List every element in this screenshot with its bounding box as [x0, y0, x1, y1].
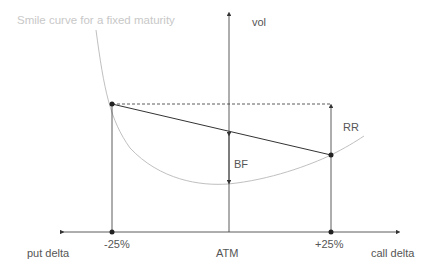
chart-title: Smile curve for a fixed maturity [17, 14, 175, 26]
bf-label: BF [234, 158, 248, 170]
smile-curve [96, 30, 364, 184]
smile-diagram [0, 0, 428, 276]
tick-right-label: +25% [315, 238, 343, 250]
y-axis-label: vol [252, 16, 266, 28]
rr-label: RR [343, 121, 359, 133]
right-tick-dot [329, 230, 334, 235]
right-point [329, 153, 334, 158]
tick-left-label: -25% [104, 238, 130, 250]
x-right-label: call delta [371, 247, 414, 259]
tick-center-label: ATM [216, 247, 238, 259]
x-left-label: put delta [27, 247, 69, 259]
left-point [110, 102, 115, 107]
left-tick-dot [110, 230, 115, 235]
rr-line [112, 104, 331, 155]
